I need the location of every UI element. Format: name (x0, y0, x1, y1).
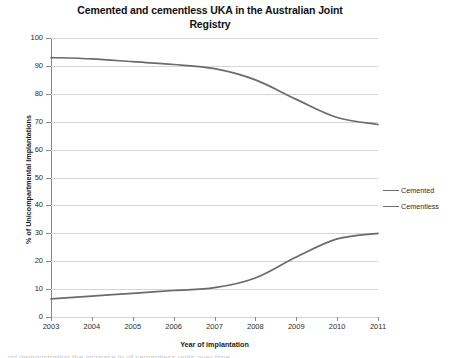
x-tick-label: 2011 (358, 322, 398, 331)
page-cutoff-text: nd demonstrating the increase in of ceme… (8, 351, 448, 358)
x-tick (337, 317, 338, 321)
x-tick (92, 317, 93, 321)
y-tick-label: 80 (13, 90, 43, 98)
legend-label-cemented: Cemented (401, 186, 434, 195)
x-tick (296, 317, 297, 321)
y-tick-label: 0 (13, 313, 43, 321)
y-tick-label: 40 (13, 201, 43, 209)
chart-title-line-2: Registry (55, 17, 365, 31)
x-tick (378, 317, 379, 321)
x-tick (51, 317, 52, 321)
x-tick-label: 2010 (317, 322, 357, 331)
plot-area (51, 38, 378, 317)
y-tick-label: 20 (13, 257, 43, 265)
line-series-cementless (51, 233, 378, 299)
x-tick (174, 317, 175, 321)
x-tick-label: 2009 (276, 322, 316, 331)
y-tick-label: 90 (13, 62, 43, 70)
x-tick-label: 2007 (195, 322, 235, 331)
legend-item-cementless[interactable]: Cementless (383, 198, 457, 214)
y-tick-label: 100 (13, 34, 43, 42)
line-series-cemented (51, 58, 378, 125)
legend-item-cemented[interactable]: Cemented (383, 182, 457, 198)
x-tick (255, 317, 256, 321)
y-tick-label: 60 (13, 146, 43, 154)
y-tick-label: 10 (13, 285, 43, 293)
x-tick-label: 2005 (113, 322, 153, 331)
x-tick (215, 317, 216, 321)
x-tick (133, 317, 134, 321)
x-axis-title: Year of implantation (51, 340, 378, 349)
x-tick-label: 2004 (72, 322, 112, 331)
chart-container: Cemented and cementless UKA in the Austr… (0, 0, 457, 358)
chart-title: Cemented and cementless UKA in the Austr… (55, 3, 365, 31)
y-tick-label: 70 (13, 118, 43, 126)
legend-line-icon-cemented (383, 190, 399, 191)
series-lines (51, 38, 378, 317)
y-tick-label: 30 (13, 229, 43, 237)
x-tick-label: 2008 (235, 322, 275, 331)
y-tick-label: 50 (13, 174, 43, 182)
chart-legend: Cemented Cementless (383, 182, 457, 214)
legend-label-cementless: Cementless (401, 202, 439, 211)
x-tick-label: 2003 (31, 322, 71, 331)
chart-title-line-1: Cemented and cementless UKA in the Austr… (55, 3, 365, 17)
legend-line-icon-cementless (383, 206, 399, 207)
x-tick-label: 2006 (154, 322, 194, 331)
